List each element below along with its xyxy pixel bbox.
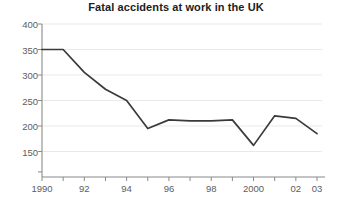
x-tick-label: 1990: [31, 183, 52, 194]
y-tick-label: 150: [4, 146, 38, 157]
chart-plot-area: [0, 0, 352, 201]
y-tick-label: 200: [4, 121, 38, 132]
x-tick-label: 94: [121, 183, 132, 194]
data-series-line: [42, 50, 317, 146]
x-tick-label: 98: [206, 183, 217, 194]
x-tick-label: 2000: [243, 183, 264, 194]
y-tick-label: 250: [4, 95, 38, 106]
y-axis-ticks: [38, 24, 42, 172]
x-tick-label: 02: [291, 183, 302, 194]
chart-container: Fatal accidents at work in the UK 150200…: [0, 0, 352, 201]
x-tick-label: 96: [164, 183, 175, 194]
x-axis-ticks: [42, 177, 317, 181]
x-axis-labels: 19909294969820000203: [0, 183, 352, 201]
x-tick-label: 03: [312, 183, 323, 194]
y-tick-label: 400: [4, 19, 38, 30]
x-tick-label: 92: [79, 183, 90, 194]
y-tick-label: 300: [4, 70, 38, 81]
gridlines: [42, 24, 322, 152]
y-tick-label: 350: [4, 44, 38, 55]
y-axis-labels: 150200250300350400: [0, 0, 38, 201]
